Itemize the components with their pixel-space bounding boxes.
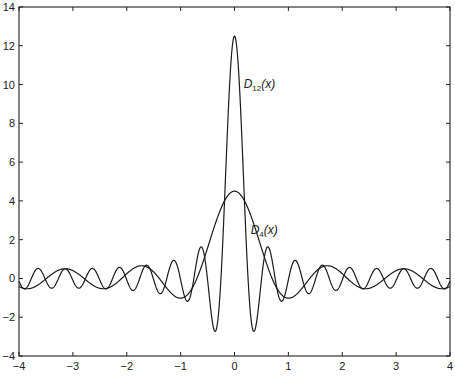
- y-tick-label: −4: [2, 350, 15, 362]
- y-tick-label: 12: [3, 40, 15, 52]
- curve-labels: D12(x)D4(x): [244, 77, 278, 238]
- axes: [19, 7, 450, 356]
- tick-labels: −4−3−2−101234−4−202468101214: [2, 1, 453, 372]
- dirichlet-kernel-chart: −4−3−2−101234−4−202468101214 D12(x)D4(x): [0, 0, 455, 382]
- y-tick-label: 4: [9, 195, 15, 207]
- y-tick-label: 10: [3, 79, 15, 91]
- ticks: [19, 7, 450, 356]
- x-tick-label: 1: [285, 360, 291, 372]
- curve-d12x: [19, 36, 450, 331]
- x-tick-label: 0: [231, 360, 237, 372]
- x-tick-label: 2: [339, 360, 345, 372]
- y-tick-label: 2: [9, 234, 15, 246]
- x-tick-label: 3: [393, 360, 399, 372]
- plot-frame: [19, 7, 450, 356]
- y-tick-label: 14: [3, 1, 15, 13]
- x-tick-label: −1: [174, 360, 187, 372]
- x-tick-label: −3: [67, 360, 80, 372]
- x-tick-label: −2: [120, 360, 133, 372]
- curves: [19, 36, 450, 331]
- y-tick-label: 0: [9, 272, 15, 284]
- y-tick-label: 6: [9, 156, 15, 168]
- curve-label: D12(x): [244, 77, 276, 93]
- y-tick-label: 8: [9, 117, 15, 129]
- x-tick-label: 4: [447, 360, 453, 372]
- curve-label: D4(x): [251, 223, 278, 239]
- y-tick-label: −2: [2, 311, 15, 323]
